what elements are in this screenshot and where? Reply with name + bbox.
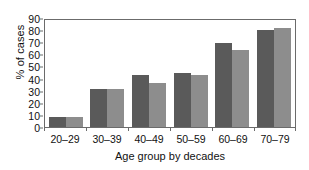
y-axis-tick-label: 80 bbox=[18, 26, 40, 36]
bar bbox=[132, 75, 149, 127]
bar-group bbox=[215, 20, 249, 127]
x-axis-tick-label: 50–59 bbox=[170, 133, 212, 145]
bar bbox=[257, 30, 274, 127]
y-axis-tick-mark bbox=[40, 128, 43, 129]
x-axis-tick-mark bbox=[212, 128, 213, 131]
bar-group bbox=[49, 20, 83, 127]
x-axis-tick-label: 70–79 bbox=[254, 133, 296, 145]
bar bbox=[49, 117, 66, 127]
y-axis-tick-labels: 9080706050403020100 bbox=[18, 19, 40, 128]
bar-group bbox=[132, 20, 166, 127]
bar bbox=[191, 75, 208, 127]
bar bbox=[274, 28, 291, 127]
bar-group bbox=[257, 20, 291, 127]
plot-area bbox=[44, 19, 296, 128]
x-axis-tick-mark bbox=[86, 128, 87, 131]
bar bbox=[215, 43, 232, 127]
y-axis-tick-label: 60 bbox=[18, 50, 40, 60]
y-axis-tick-label: 90 bbox=[18, 14, 40, 24]
bars-container bbox=[45, 20, 295, 127]
bar-group bbox=[90, 20, 124, 127]
y-axis-tick-label: 50 bbox=[18, 62, 40, 72]
bar bbox=[107, 89, 124, 127]
x-axis-tick-label: 30–39 bbox=[86, 133, 128, 145]
x-axis-tick-label: 60–69 bbox=[212, 133, 254, 145]
x-axis-tick-labels: 20–2930–3940–4950–5960–6970–79 bbox=[44, 133, 296, 145]
bar-chart: % of cases 9080706050403020100 20–2930–3… bbox=[0, 0, 309, 170]
y-axis-tick-mark bbox=[40, 31, 43, 32]
y-axis-tick-mark bbox=[40, 67, 43, 68]
x-axis-tick-label: 40–49 bbox=[128, 133, 170, 145]
x-axis-tick-mark bbox=[254, 128, 255, 131]
x-axis-title: Age group by decades bbox=[44, 150, 296, 162]
y-axis-tick-mark bbox=[40, 55, 43, 56]
y-axis-tick-mark bbox=[40, 91, 43, 92]
bar bbox=[232, 50, 249, 128]
bar bbox=[66, 117, 83, 127]
x-axis-tick-mark bbox=[170, 128, 171, 131]
y-axis-tick-mark bbox=[40, 115, 43, 116]
y-axis-tick-mark bbox=[40, 43, 43, 44]
y-axis-tick-label: 40 bbox=[18, 75, 40, 85]
x-axis-tick-marks bbox=[44, 128, 296, 132]
y-axis-tick-label: 10 bbox=[18, 111, 40, 121]
y-axis-tick-label: 0 bbox=[18, 123, 40, 133]
y-axis-tick-label: 30 bbox=[18, 87, 40, 97]
x-axis-tick-label: 20–29 bbox=[44, 133, 86, 145]
y-axis-tick-mark bbox=[40, 19, 43, 20]
x-axis-tick-mark bbox=[44, 128, 45, 131]
y-axis-tick-label: 20 bbox=[18, 99, 40, 109]
bar bbox=[149, 83, 166, 127]
x-axis-tick-mark bbox=[295, 128, 296, 131]
bar-group bbox=[174, 20, 208, 127]
x-axis-tick-mark bbox=[128, 128, 129, 131]
y-axis-tick-mark bbox=[40, 103, 43, 104]
y-axis-tick-mark bbox=[40, 79, 43, 80]
bar bbox=[90, 89, 107, 127]
y-axis-tick-label: 70 bbox=[18, 38, 40, 48]
bar bbox=[174, 73, 191, 128]
